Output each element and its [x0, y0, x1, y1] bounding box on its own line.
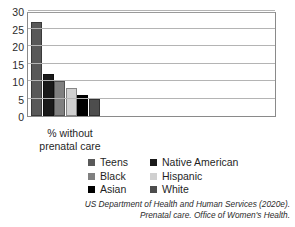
y-tick-label-10: 10: [0, 77, 24, 87]
chart-legend: TeensNative AmericanBlackHispanicAsianWh…: [88, 156, 288, 197]
legend-label: Hispanic: [162, 171, 202, 182]
plot-wrapper: 051015202530: [0, 8, 295, 126]
x-caption-line-1: % without: [16, 127, 124, 140]
y-tick-label-5: 5: [0, 95, 24, 105]
y-tick-label-20: 20: [0, 42, 24, 52]
gridline-25: [28, 28, 275, 29]
x-axis-caption: % without prenatal care: [16, 127, 124, 152]
citation-line-2: Prenatal care. Office of Women's Health.: [40, 210, 290, 221]
gridline-15: [28, 63, 275, 64]
x-caption-line-2: prenatal care: [16, 140, 124, 153]
citation-line-1: US Department of Health and Human Servic…: [40, 199, 290, 210]
legend-row: BlackHispanic: [88, 170, 288, 184]
legend-swatch-icon: [88, 159, 95, 166]
plot-area: [27, 12, 276, 117]
bar-black: [54, 81, 65, 116]
legend-swatch-icon: [150, 159, 157, 166]
legend-label: White: [162, 184, 189, 195]
y-tick-label-15: 15: [0, 60, 24, 70]
bar-teens: [31, 22, 42, 117]
legend-label: Native American: [162, 157, 238, 168]
legend-swatch-icon: [88, 173, 95, 180]
legend-swatch-icon: [88, 186, 95, 193]
legend-label: Black: [100, 171, 126, 182]
legend-item-teens: Teens: [88, 157, 150, 168]
legend-swatch-icon: [150, 173, 157, 180]
legend-item-hispanic: Hispanic: [150, 171, 280, 182]
bar-chart-figure: 051015202530 % without prenatal care Tee…: [0, 0, 295, 227]
y-tick-label-25: 25: [0, 25, 24, 35]
gridline-5: [28, 98, 275, 99]
y-tick-label-30: 30: [0, 7, 24, 17]
legend-item-white: White: [150, 184, 280, 195]
legend-label: Teens: [100, 157, 128, 168]
legend-label: Asian: [100, 184, 126, 195]
gridline-10: [28, 80, 275, 81]
y-axis-tick-labels: 051015202530: [0, 8, 24, 116]
bar-hispanic: [66, 88, 77, 116]
gridline-30: [28, 10, 275, 11]
source-citation: US Department of Health and Human Servic…: [40, 199, 290, 220]
legend-row: AsianWhite: [88, 183, 288, 197]
legend-swatch-icon: [150, 186, 157, 193]
gridline-20: [28, 45, 275, 46]
legend-item-asian: Asian: [88, 184, 150, 195]
bar-white: [89, 99, 100, 117]
legend-row: TeensNative American: [88, 156, 288, 170]
legend-item-black: Black: [88, 171, 150, 182]
y-tick-label-0: 0: [0, 112, 24, 122]
legend-item-native-american: Native American: [150, 157, 280, 168]
